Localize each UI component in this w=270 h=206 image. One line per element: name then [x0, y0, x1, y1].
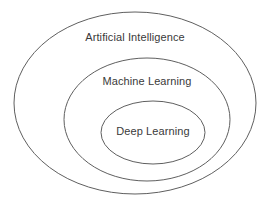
- ellipse-machine-learning: [64, 58, 230, 181]
- venn-diagram-canvas: Artificial Intelligence Machine Learning…: [0, 0, 270, 206]
- ellipse-deep-learning: [101, 101, 205, 164]
- venn-diagram-svg: [0, 0, 270, 206]
